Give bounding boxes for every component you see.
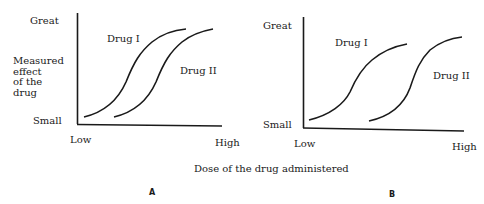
panel-a-letter: A [149,188,155,197]
panel-b-y-top-label: Great [263,20,292,31]
panel-a-drug1-label: Drug I [107,33,140,44]
panel-a-y-top-label: Great [30,15,59,26]
panel-b-x-axis [303,128,464,131]
x-axis-label: Dose of the drug administered [194,163,349,174]
panel-b-drug1-curve [309,44,407,120]
panel-b-x-left-label: Low [294,138,315,149]
panel-a-x-left-label: Low [70,134,91,145]
panel-a-x-axis [77,125,222,127]
panel-b-x-right-label: High [452,141,477,152]
panel-b-y-bottom-label: Small [263,119,292,130]
panel-b-drug2-label: Drug II [433,70,470,81]
y-axis-label: Measured effect of the drug [13,56,64,98]
panel-b-letter: B [389,190,395,199]
panel-b-drug1-label: Drug I [335,37,368,48]
panel-a-y-bottom-label: Small [33,115,62,126]
panel-a-drug2-label: Drug II [180,65,217,76]
panel-a-x-right-label: High [215,137,240,148]
